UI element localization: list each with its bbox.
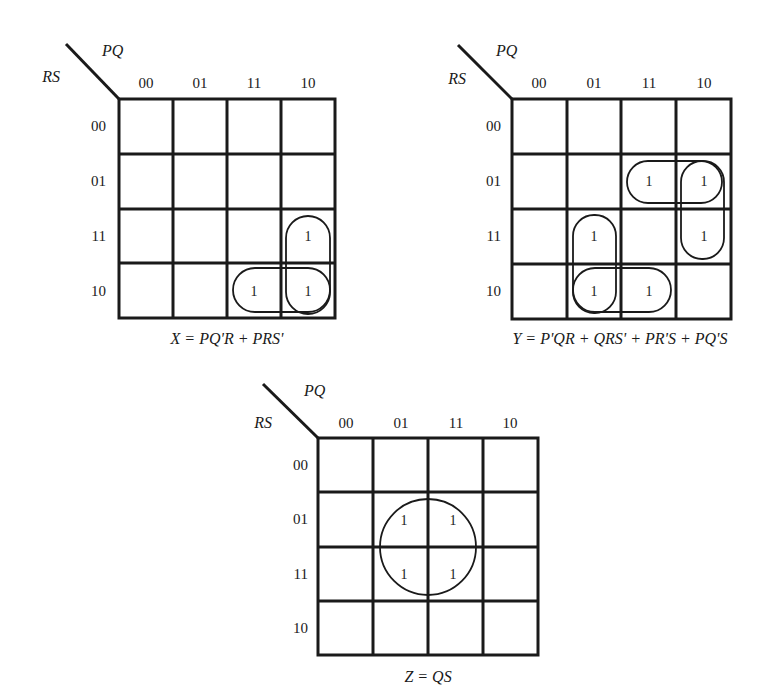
row-header-00: 00 (91, 118, 106, 134)
row-variable-label: RS (447, 70, 466, 87)
cell-value: 1 (305, 284, 312, 299)
column-variable-label: PQ (303, 382, 326, 399)
kmap-grid (512, 99, 731, 319)
kmap-y: PQ RS 00 01 11 10 00 01 11 10 1 1 1 1 1 … (392, 0, 784, 360)
row-header-00: 00 (293, 457, 308, 473)
row-header-10: 10 (91, 283, 106, 299)
equation-z: Z = QS (404, 668, 451, 685)
cell-value: 1 (251, 284, 258, 299)
kmap-x: PQ RS 00 01 11 10 00 01 11 10 1 1 1 X = … (0, 0, 392, 360)
cell-value: 1 (646, 284, 653, 299)
column-header-01: 01 (587, 75, 602, 91)
row-header-10: 10 (293, 620, 308, 636)
row-variable-label: RS (253, 414, 272, 431)
row-header-10: 10 (486, 283, 501, 299)
cell-value: 1 (450, 567, 457, 582)
column-variable-label: PQ (101, 42, 124, 59)
cell-value: 1 (591, 229, 598, 244)
row-header-01: 01 (293, 511, 308, 527)
column-header-11: 11 (642, 75, 656, 91)
row-header-11: 11 (294, 566, 308, 582)
column-header-11: 11 (449, 415, 463, 431)
cell-value: 1 (646, 174, 653, 189)
kmap-grid (318, 438, 538, 655)
column-header-00: 00 (339, 415, 354, 431)
column-header-11: 11 (247, 75, 261, 91)
cell-value: 1 (591, 284, 598, 299)
row-header-11: 11 (487, 228, 501, 244)
row-header-11: 11 (92, 228, 106, 244)
column-header-01: 01 (193, 75, 208, 91)
equation-x: X = PQ'R + PRS' (170, 330, 284, 347)
column-header-10: 10 (301, 75, 316, 91)
cell-value: 1 (401, 567, 408, 582)
row-variable-label: RS (41, 68, 60, 85)
cell-value: 1 (701, 174, 708, 189)
column-header-01: 01 (394, 415, 409, 431)
column-header-00: 00 (139, 75, 154, 91)
row-header-01: 01 (91, 173, 106, 189)
row-header-00: 00 (486, 118, 501, 134)
column-header-10: 10 (503, 415, 518, 431)
equation-y: Y = P'QR + QRS' + PR'S + PQ'S (512, 330, 727, 347)
cell-value: 1 (401, 513, 408, 528)
column-header-00: 00 (532, 75, 547, 91)
cell-value: 1 (305, 229, 312, 244)
cell-value: 1 (701, 229, 708, 244)
kmap-grid (119, 99, 335, 318)
column-header-10: 10 (697, 75, 712, 91)
column-variable-label: PQ (495, 42, 518, 59)
row-header-01: 01 (486, 173, 501, 189)
cell-value: 1 (450, 513, 457, 528)
kmap-z: PQ RS 00 01 11 10 00 01 11 10 1 1 1 1 Z … (0, 360, 784, 692)
